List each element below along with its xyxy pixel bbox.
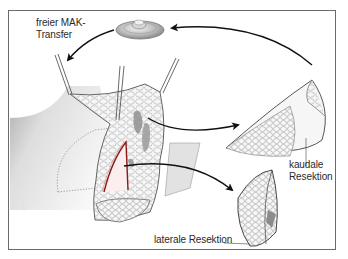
caudal-line1: kaudale [289,159,333,171]
caudal-resection-specimen [226,80,325,166]
arrow-to-nipple [172,27,312,65]
caudal-resection-label: kaudale Resektion [289,159,333,183]
mak-transfer-line1: freier MAK- [36,17,85,29]
nipple-areola-complex [116,20,164,39]
mak-transfer-label: freier MAK- Transfer [36,17,85,41]
lateral-resection-label: laterale Resektion [154,234,232,246]
mak-transfer-line2: Transfer [36,29,85,41]
caudal-line2: Resektion [289,171,333,183]
